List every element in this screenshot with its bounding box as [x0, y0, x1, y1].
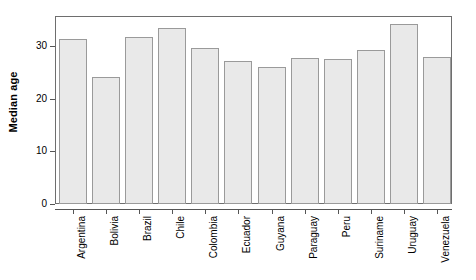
- x-axis-tick-label: Uruguay: [408, 216, 418, 254]
- x-axis-tick: [106, 209, 107, 214]
- x-axis-tick-label: Paraguay: [309, 216, 319, 259]
- x-axis-tick-label: Suriname: [375, 216, 385, 259]
- x-axis-tick-label: Venezuela: [441, 216, 451, 263]
- y-axis-tick-label: 10: [26, 146, 47, 156]
- y-axis-title-text: Median age: [7, 72, 19, 133]
- y-axis-tick-label: 20: [26, 94, 47, 104]
- x-axis-tick-label: Colombia: [209, 216, 219, 258]
- y-axis-tick: [50, 204, 55, 205]
- x-axis-tick: [437, 209, 438, 214]
- x-axis-tick: [205, 209, 206, 214]
- plot-frame: [55, 16, 452, 204]
- x-axis-tick: [139, 209, 140, 214]
- x-axis-tick: [238, 209, 239, 214]
- chart-root: Median age 0102030 ArgentinaBoliviaBrazi…: [0, 0, 476, 280]
- y-axis-tick-label: 30: [26, 41, 47, 51]
- x-axis-tick: [272, 209, 273, 214]
- x-axis-tick: [172, 209, 173, 214]
- x-axis-tick-label: Chile: [176, 216, 186, 239]
- y-axis-tick: [50, 151, 55, 152]
- x-axis-tick-label: Argentina: [77, 216, 87, 259]
- x-axis-tick: [73, 209, 74, 214]
- x-axis-tick-label: Peru: [342, 216, 352, 237]
- plot-frame-left-edge: [55, 16, 56, 204]
- x-axis-tick-label: Ecuador: [242, 216, 252, 253]
- y-axis-tick: [50, 99, 55, 100]
- x-axis-tick-label: Brazil: [143, 216, 153, 241]
- x-axis-tick: [338, 209, 339, 214]
- y-axis-title: Median age: [0, 0, 26, 204]
- x-axis-tick: [305, 209, 306, 214]
- x-axis-tick: [404, 209, 405, 214]
- y-axis-tick-label: 0: [26, 199, 47, 209]
- y-axis-tick: [50, 46, 55, 47]
- x-axis-tick-label: Guyana: [276, 216, 286, 251]
- x-axis-tick-label: Bolivia: [110, 216, 120, 245]
- x-axis-tick: [371, 209, 372, 214]
- x-axis-line: [55, 209, 452, 210]
